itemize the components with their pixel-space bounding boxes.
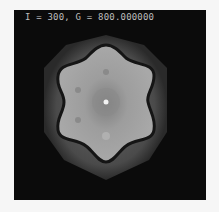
- center-spot: [104, 100, 109, 105]
- node-upper-left: [75, 87, 81, 93]
- node-lower-left: [75, 117, 81, 123]
- simulation-visualization: [14, 10, 206, 200]
- simulation-canvas: I = 300, G = 800.000000: [14, 10, 206, 200]
- node-bottom: [102, 132, 110, 140]
- simulation-label: I = 300, G = 800.000000: [25, 12, 154, 22]
- node-top: [103, 69, 109, 75]
